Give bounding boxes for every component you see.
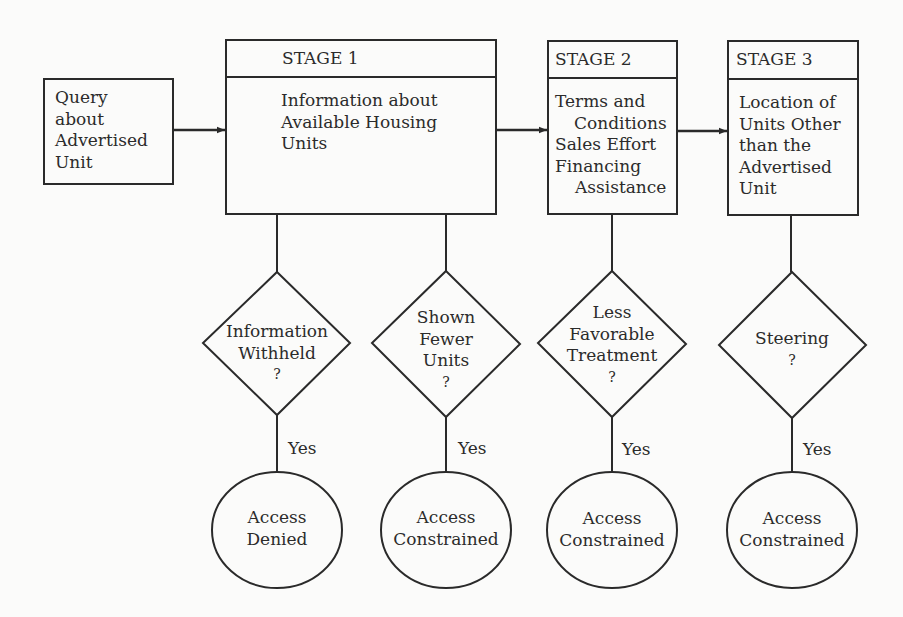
decision-3-line: Treatment	[552, 345, 672, 367]
query-line: Advertised	[55, 130, 148, 152]
decision-4-line: Steering	[732, 328, 852, 350]
stage-2-body-line: Assistance	[555, 177, 667, 199]
query-line: Query	[55, 87, 148, 109]
stage-3-body-line: than the	[739, 135, 841, 157]
query-line: Unit	[55, 152, 148, 174]
decision-1-text: Information Withheld ?	[217, 321, 337, 386]
stage-2-body: Terms and Conditions Sales Effort Financ…	[555, 91, 667, 199]
outcome-3-line: Constrained	[552, 530, 672, 552]
decision-2-text: Shown Fewer Units ?	[386, 307, 506, 393]
outcome-4-text: Access Constrained	[732, 508, 852, 551]
stage-2-body-line: Sales Effort	[555, 134, 667, 156]
outcome-2-line: Access	[386, 507, 506, 529]
edge-label-yes-1: Yes	[288, 438, 317, 460]
outcome-2-text: Access Constrained	[386, 507, 506, 550]
outcome-2-line: Constrained	[386, 529, 506, 551]
stage-2-body-line: Conditions	[555, 113, 667, 135]
outcome-1-line: Access	[217, 507, 337, 529]
decision-2-line: Units	[386, 350, 506, 372]
stage-2-body-line: Terms and	[555, 91, 667, 113]
outcome-3-text: Access Constrained	[552, 508, 672, 551]
stage-1-body-line: Information about	[281, 90, 437, 112]
query-line: about	[55, 109, 148, 131]
decision-2-line: Fewer	[386, 329, 506, 351]
decision-4-line: ?	[732, 350, 852, 372]
decision-3-line: Less	[552, 302, 672, 324]
stage-2-body-line: Financing	[555, 156, 667, 178]
decision-3-line: ?	[552, 367, 672, 389]
query-text: Query about Advertised Unit	[55, 87, 148, 173]
stage-1-title: STAGE 1	[282, 48, 359, 70]
decision-1-line: ?	[217, 364, 337, 386]
stage-1-body-line: Units	[281, 133, 437, 155]
edge-label-yes-2: Yes	[458, 438, 487, 460]
stage-3-title: STAGE 3	[736, 49, 813, 71]
stage-3-body-line: Location of	[739, 92, 841, 114]
decision-1-line: Withheld	[217, 343, 337, 365]
stage-3-body-line: Units Other	[739, 114, 841, 136]
stage-2-title: STAGE 2	[555, 49, 632, 71]
outcome-3-line: Access	[552, 508, 672, 530]
stage-3-body-line: Advertised	[739, 157, 841, 179]
edge-label-yes-4: Yes	[803, 439, 832, 461]
decision-2-line: Shown	[386, 307, 506, 329]
outcome-1-text: Access Denied	[217, 507, 337, 550]
decision-3-text: Less Favorable Treatment ?	[552, 302, 672, 388]
stage-3-body-line: Unit	[739, 178, 841, 200]
edge-label-yes-3: Yes	[622, 439, 651, 461]
stage-1-body-line: Available Housing	[281, 112, 437, 134]
stage-1-body: Information about Available Housing Unit…	[281, 90, 437, 155]
decision-4-text: Steering ?	[732, 328, 852, 371]
decision-1-line: Information	[217, 321, 337, 343]
outcome-1-line: Denied	[217, 529, 337, 551]
outcome-4-line: Access	[732, 508, 852, 530]
stage-3-body: Location of Units Other than the Adverti…	[739, 92, 841, 200]
decision-3-line: Favorable	[552, 324, 672, 346]
decision-2-line: ?	[386, 372, 506, 394]
outcome-4-line: Constrained	[732, 530, 852, 552]
